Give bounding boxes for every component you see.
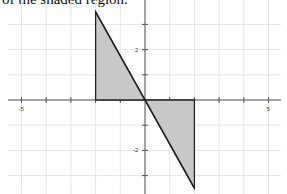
coordinate-plane: -552-2: [0, 0, 287, 194]
x-tick-label: -5: [19, 106, 25, 112]
x-tick-label: 5: [267, 106, 271, 112]
y-tick-label: -2: [133, 147, 139, 153]
